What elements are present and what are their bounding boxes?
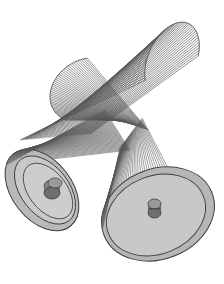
string-model-illustration — [0, 0, 224, 284]
illustration-svg — [0, 0, 224, 284]
right-disk — [87, 151, 224, 278]
upper-right-string-fan — [20, 22, 199, 140]
left-hub — [44, 178, 62, 199]
right-hub — [148, 199, 161, 218]
